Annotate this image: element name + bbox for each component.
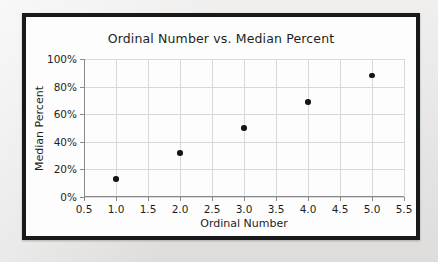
y-tick [80,169,84,170]
y-tick [80,59,84,60]
x-tick-label: 3.5 [268,203,285,215]
x-tick [116,197,117,201]
gridline-vertical [148,59,149,197]
y-tick [80,114,84,115]
chart-title: Ordinal Number vs. Median Percent [26,31,416,46]
data-point [305,99,311,105]
y-tick-label: 40% [54,136,77,148]
data-point [369,73,375,79]
x-tick [180,197,181,201]
y-tick [80,87,84,88]
data-point [177,150,183,156]
x-tick [372,197,373,201]
data-point [113,176,119,182]
chart-card: Ordinal Number vs. Median Percent 0.51.0… [26,17,416,236]
gridline-vertical [212,59,213,197]
gridline-vertical [372,59,373,197]
y-axis-label: Median Percent [32,59,46,197]
x-tick [84,197,85,201]
x-tick [148,197,149,201]
x-tick [276,197,277,201]
x-tick-label: 1.0 [108,203,125,215]
y-axis-label-text: Median Percent [33,86,46,171]
figure-frame: Ordinal Number vs. Median Percent 0.51.0… [22,13,420,240]
y-tick-label: 80% [54,81,77,93]
gridline-vertical [308,59,309,197]
y-tick [80,142,84,143]
x-tick-label: 4.5 [332,203,349,215]
x-tick-label: 5.0 [364,203,381,215]
x-tick [340,197,341,201]
y-tick-label: 100% [47,53,77,65]
data-point [241,125,247,131]
x-tick [404,197,405,201]
y-tick-label: 60% [54,108,77,120]
gridline-vertical [276,59,277,197]
gridline-vertical [340,59,341,197]
x-tick-label: 1.5 [140,203,157,215]
plot-area: 0.51.01.52.02.53.03.54.04.55.05.5 0%20%4… [84,59,404,197]
gridline-vertical [180,59,181,197]
x-tick-label: 2.0 [172,203,189,215]
x-tick-label: 5.5 [396,203,413,215]
x-tick [308,197,309,201]
x-axis-label: Ordinal Number [84,217,404,230]
x-tick-label: 3.0 [236,203,253,215]
gridline-vertical [404,59,405,197]
x-tick-label: 4.0 [300,203,317,215]
x-tick-label: 0.5 [76,203,93,215]
y-tick [80,197,84,198]
y-axis-line [84,59,85,197]
x-tick-label: 2.5 [204,203,221,215]
x-tick [212,197,213,201]
y-tick-label: 0% [60,191,77,203]
x-tick [244,197,245,201]
y-tick-label: 20% [54,163,77,175]
